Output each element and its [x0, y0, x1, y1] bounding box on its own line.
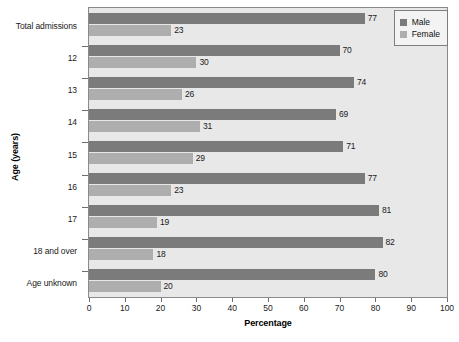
x-tick-mark [232, 298, 233, 302]
x-tick-mark [447, 298, 448, 302]
bar-value-label: 74 [357, 77, 366, 88]
x-tick-label: 80 [371, 303, 380, 313]
bar-group: 8020 [89, 269, 447, 292]
bar-value-label: 80 [378, 269, 387, 280]
bar-male [89, 141, 343, 152]
bar-chart: Age (years) Total admissions121314151617… [0, 0, 459, 342]
x-tick-mark [125, 298, 126, 302]
bar-female [89, 185, 171, 196]
y-tick-label: 13 [68, 85, 77, 95]
bar-male [89, 173, 365, 184]
x-tick-label: 70 [335, 303, 344, 313]
bar-female [89, 121, 200, 132]
bar-male [89, 205, 379, 216]
y-tick-label: Total admissions [16, 21, 77, 31]
bar-value-label: 23 [174, 185, 183, 196]
bar-female [89, 153, 193, 164]
bar-value-label: 30 [199, 57, 208, 68]
legend-swatch-male [400, 19, 407, 26]
x-tick-label: 50 [263, 303, 272, 313]
y-tick-label: 18 and over [33, 246, 77, 256]
bar-male [89, 237, 383, 248]
y-tick-label: 17 [68, 214, 77, 224]
bar-group: 7723 [89, 173, 447, 196]
bar-female [89, 57, 196, 68]
legend-label: Female [412, 29, 440, 39]
bar-female [89, 281, 161, 292]
bar-value-label: 19 [160, 217, 169, 228]
x-tick-label: 100 [440, 303, 454, 313]
bar-group: 7030 [89, 45, 447, 68]
x-tick-mark [268, 298, 269, 302]
bar-male [89, 109, 336, 120]
bar-value-label: 31 [203, 121, 212, 132]
bar-male [89, 13, 365, 24]
y-axis-tick-labels: Total admissions12131415161718 and overA… [0, 7, 84, 298]
x-tick-mark [411, 298, 412, 302]
x-tick-mark [196, 298, 197, 302]
bar-male [89, 269, 375, 280]
y-tick-label: 12 [68, 53, 77, 63]
bar-female [89, 25, 171, 36]
bar-group: 8218 [89, 237, 447, 260]
x-tick-mark [340, 298, 341, 302]
bar-male [89, 77, 354, 88]
bar-value-label: 71 [346, 141, 355, 152]
legend-item: Male [400, 17, 440, 27]
plot-area: 772370307426693171297723811982188020 [88, 7, 448, 298]
bar-value-label: 29 [196, 153, 205, 164]
legend-item: Female [400, 29, 440, 39]
bar-group: 7426 [89, 77, 447, 100]
bar-group: 7129 [89, 141, 447, 164]
bar-group: 6931 [89, 109, 447, 132]
bar-value-label: 81 [382, 205, 391, 216]
x-tick-mark [304, 298, 305, 302]
plot-inner: 772370307426693171297723811982188020 [89, 8, 447, 297]
x-tick-mark [375, 298, 376, 302]
bar-group: 8119 [89, 205, 447, 228]
x-tick-mark [161, 298, 162, 302]
x-tick-label: 0 [87, 303, 92, 313]
bar-value-label: 69 [339, 109, 348, 120]
bar-value-label: 20 [164, 281, 173, 292]
y-tick-label: 14 [68, 117, 77, 127]
bar-value-label: 77 [368, 173, 377, 184]
bar-female [89, 89, 182, 100]
bar-value-label: 82 [386, 237, 395, 248]
x-axis-title: Percentage [88, 318, 448, 328]
x-tick-label: 30 [192, 303, 201, 313]
legend-label: Male [412, 17, 430, 27]
x-tick-label: 40 [227, 303, 236, 313]
y-tick-label: Age unknown [27, 278, 77, 288]
legend-swatch-female [400, 31, 407, 38]
x-tick-label: 20 [156, 303, 165, 313]
chart-legend: MaleFemale [394, 10, 448, 46]
bar-male [89, 45, 340, 56]
y-tick-label: 15 [68, 150, 77, 160]
x-tick-label: 90 [406, 303, 415, 313]
bar-female [89, 217, 157, 228]
bar-value-label: 26 [185, 89, 194, 100]
x-tick-label: 60 [299, 303, 308, 313]
bar-value-label: 18 [156, 249, 165, 260]
x-tick-mark [89, 298, 90, 302]
x-tick-label: 10 [120, 303, 129, 313]
bar-value-label: 70 [343, 45, 352, 56]
y-tick-label: 16 [68, 182, 77, 192]
bar-female [89, 249, 153, 260]
bar-value-label: 77 [368, 13, 377, 24]
bar-value-label: 23 [174, 25, 183, 36]
